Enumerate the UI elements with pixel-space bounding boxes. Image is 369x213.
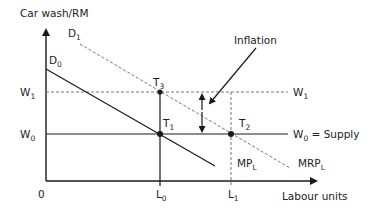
d0-label: D0 <box>49 54 62 69</box>
point-t1 <box>157 131 163 137</box>
origin-label: 0 <box>38 188 45 200</box>
t3-label: T3 <box>152 76 164 91</box>
mpl-label: MPL <box>237 157 257 172</box>
y-axis-label: Car wash/RM <box>20 7 88 19</box>
mrpl-label: MRPL <box>298 157 326 172</box>
inflation-arrow <box>210 48 256 103</box>
point-t2 <box>228 131 234 137</box>
d0-demand-curve <box>46 69 215 166</box>
l0-label: L0 <box>156 188 167 203</box>
w1-label-right: W1 <box>293 86 308 101</box>
labour-market-diagram: Car wash/RM Labour units 0 Inflation D1 … <box>0 0 369 213</box>
w1-label-left: W1 <box>20 86 35 101</box>
l1-label: L1 <box>228 188 239 203</box>
inflation-label: Inflation <box>234 34 277 46</box>
t2-label: T2 <box>238 117 250 132</box>
t1-label: T1 <box>162 117 174 132</box>
w0-label-left: W0 <box>20 128 35 143</box>
w0-supply-label: W0 = Supply <box>293 128 359 143</box>
x-axis-label: Labour units <box>282 190 348 202</box>
d1-label: D1 <box>68 27 81 42</box>
